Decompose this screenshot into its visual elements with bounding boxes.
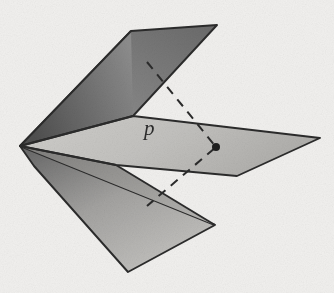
figure-canvas: p [0,0,334,293]
paper-grain-overlay [0,0,334,293]
geometry-figure [0,0,334,293]
point-label-p: p [144,118,155,139]
